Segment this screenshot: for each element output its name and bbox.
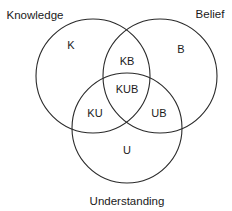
region-kb-label: KB — [120, 55, 135, 68]
region-b-label: B — [177, 43, 184, 56]
region-u-label: U — [123, 144, 131, 157]
region-ku-label: KU — [87, 107, 102, 120]
region-ub-label: UB — [151, 107, 166, 120]
region-kub-label: KUB — [116, 83, 139, 96]
knowledge-set-label: Knowledge — [7, 9, 64, 22]
venn-circles — [0, 0, 232, 211]
region-k-label: K — [67, 39, 74, 52]
belief-set-label: Belief — [196, 8, 225, 21]
understanding-set-label: Understanding — [90, 195, 165, 208]
